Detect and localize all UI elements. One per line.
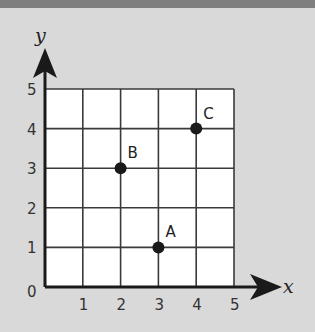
y-tick-label: 2 (27, 200, 37, 218)
y-tick-label: 3 (27, 160, 37, 178)
x-tick-label: 1 (79, 296, 89, 314)
origin-label: 0 (27, 283, 37, 301)
y-axis-label: y (34, 24, 46, 46)
data-point-b (115, 162, 127, 174)
point-label-b: B (128, 144, 138, 162)
data-point-a (152, 241, 164, 253)
coordinate-grid-chart: y x 0 12345 12345 ABC (0, 0, 315, 332)
y-tick-label: 5 (27, 81, 37, 99)
y-tick-label: 1 (27, 239, 37, 257)
y-tick-labels: 12345 (27, 81, 37, 257)
x-tick-labels: 12345 (79, 296, 240, 314)
point-label-a: A (165, 223, 176, 241)
y-tick-label: 4 (27, 121, 37, 139)
point-label-c: C (203, 105, 213, 123)
x-axis-label: x (283, 275, 294, 297)
x-tick-label: 4 (192, 296, 202, 314)
x-tick-label: 2 (117, 296, 127, 314)
data-point-c (190, 123, 202, 135)
x-tick-label: 5 (230, 296, 240, 314)
x-tick-label: 3 (154, 296, 164, 314)
